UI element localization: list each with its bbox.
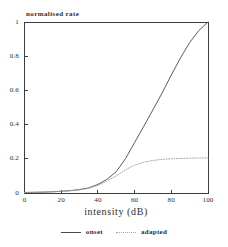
x-tick-label: 40 [86,197,110,204]
y-tick-label: 1 [0,19,19,26]
x-tick-label: 0 [13,197,37,204]
x-tick-label: 80 [159,197,183,204]
y-tick-label: 0.6 [0,87,19,94]
legend-item-onset: onset [61,228,103,236]
legend-label-onset: onset [86,228,103,236]
y-axis-title: normalised rate [26,10,79,18]
legend-item-adapted: adapted [116,228,167,236]
adapted-line-sample-icon [116,232,136,233]
adapted-curve [25,158,209,193]
x-tick-label: 60 [123,197,147,204]
figure: normalised rate 1 0.8 0.6 0.4 0.2 0 0 20… [0,0,228,247]
onset-curve [25,22,209,192]
legend: onset adapted [0,228,228,236]
legend-label-adapted: adapted [141,228,167,236]
x-axis-title: intensity (dB) [24,206,208,217]
y-tick-label: 0.8 [0,53,19,60]
x-tick-label: 20 [49,197,73,204]
y-tick-label: 0.4 [0,121,19,128]
onset-line-sample-icon [61,232,81,233]
y-tick-label: 0 [0,190,19,197]
y-tick-label: 0.2 [0,155,19,162]
plot-border [25,22,209,193]
x-tick-label: 100 [196,197,220,204]
